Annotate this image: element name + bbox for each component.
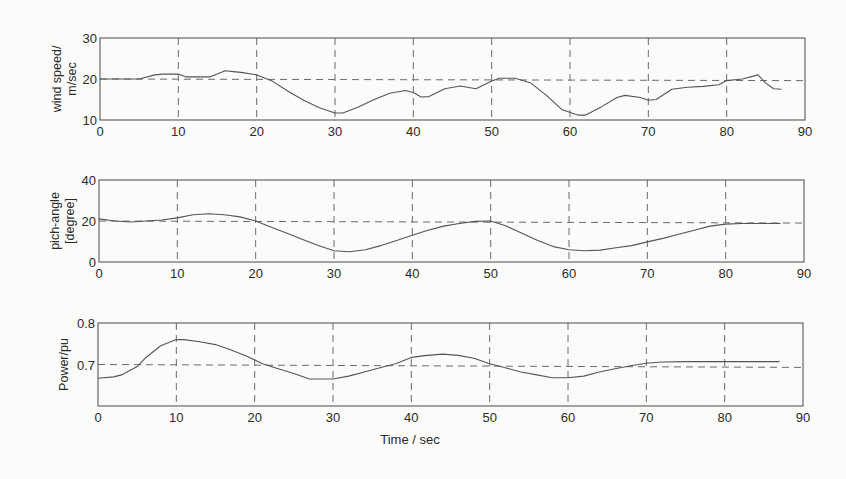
y-tick-label: 20 xyxy=(82,214,96,229)
reference-line xyxy=(100,79,805,81)
x-tick-label: 10 xyxy=(169,410,183,425)
pitch-angle-subplot: 010203040506070809002040pich-angle[degre… xyxy=(48,173,812,281)
x-tick-label: 50 xyxy=(484,124,498,139)
x-tick-label: 50 xyxy=(482,410,496,425)
figure: 0102030405060708090102030wind speed/m/se… xyxy=(0,0,846,479)
reference-line xyxy=(99,221,804,223)
y-axis-label: pich-angle xyxy=(48,192,62,250)
data-series-line xyxy=(100,71,782,115)
x-tick-label: 80 xyxy=(717,410,731,425)
data-series-line xyxy=(98,340,780,379)
x-tick-label: 20 xyxy=(247,410,261,425)
x-tick-label: 10 xyxy=(170,266,184,281)
x-tick-label: 0 xyxy=(95,266,102,281)
x-tick-label: 60 xyxy=(562,266,576,281)
x-tick-label: 40 xyxy=(406,124,420,139)
y-axis-label: wind speed/ xyxy=(50,45,64,113)
x-tick-label: 70 xyxy=(641,124,655,139)
y-tick-label: 0.7 xyxy=(77,358,95,373)
x-tick-label: 0 xyxy=(94,410,101,425)
x-tick-label: 40 xyxy=(404,410,418,425)
x-tick-label: 20 xyxy=(248,266,262,281)
x-tick-label: 30 xyxy=(326,410,340,425)
x-tick-label: 30 xyxy=(328,124,342,139)
power-subplot: 01020304050607080900.70.8Power/pu xyxy=(57,316,810,425)
x-tick-label: 50 xyxy=(483,266,497,281)
y-axis-label: Power/pu xyxy=(57,338,71,391)
x-tick-label: 80 xyxy=(719,124,733,139)
data-series-line xyxy=(99,214,781,252)
y-axis-label: m/sec xyxy=(65,62,79,95)
x-tick-label: 90 xyxy=(796,410,810,425)
y-tick-label: 20 xyxy=(83,72,97,87)
reference-line xyxy=(98,365,803,368)
y-tick-label: 10 xyxy=(83,113,97,128)
y-tick-label: 40 xyxy=(82,173,96,188)
x-tick-label: 70 xyxy=(639,410,653,425)
x-tick-label: 90 xyxy=(797,266,811,281)
x-axis-label: Time / sec xyxy=(380,432,440,447)
y-axis-label: [degree] xyxy=(63,198,77,244)
x-tick-label: 40 xyxy=(405,266,419,281)
x-tick-label: 80 xyxy=(718,266,732,281)
axes-box xyxy=(100,38,805,120)
wind-speed-subplot: 0102030405060708090102030wind speed/m/se… xyxy=(50,31,813,139)
x-tick-label: 10 xyxy=(171,124,185,139)
x-tick-label: 70 xyxy=(640,266,654,281)
x-tick-label: 60 xyxy=(563,124,577,139)
x-tick-label: 60 xyxy=(561,410,575,425)
chart-canvas: 0102030405060708090102030wind speed/m/se… xyxy=(0,0,846,479)
y-tick-label: 0.8 xyxy=(77,316,95,331)
x-tick-label: 90 xyxy=(798,124,812,139)
x-tick-label: 30 xyxy=(327,266,341,281)
axes-box xyxy=(98,323,803,406)
y-tick-label: 0 xyxy=(89,255,96,270)
x-tick-label: 0 xyxy=(96,124,103,139)
axes-box xyxy=(99,180,804,262)
x-tick-label: 20 xyxy=(249,124,263,139)
y-tick-label: 30 xyxy=(83,31,97,46)
